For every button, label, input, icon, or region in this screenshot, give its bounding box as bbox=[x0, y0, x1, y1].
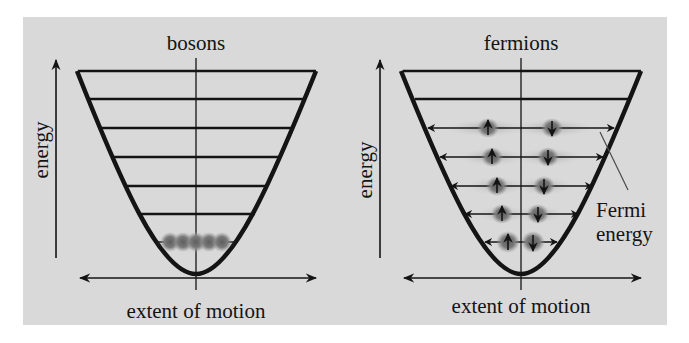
fermions-energy-label: energy bbox=[353, 141, 377, 198]
boson-fermion-diagram: bosons energy extent of bbox=[0, 0, 689, 343]
bosons-energy-label: energy bbox=[29, 121, 53, 178]
fermions-x-label: extent of motion bbox=[452, 294, 591, 318]
bosons-x-label: extent of motion bbox=[127, 299, 266, 323]
boson-particle bbox=[212, 232, 232, 252]
boson-condensate bbox=[156, 231, 236, 253]
fermions-title: fermions bbox=[484, 31, 559, 55]
fermi-label-line1: Fermi bbox=[596, 198, 646, 222]
bosons-title: bosons bbox=[167, 31, 225, 55]
fermi-label-line2: energy bbox=[596, 222, 653, 246]
